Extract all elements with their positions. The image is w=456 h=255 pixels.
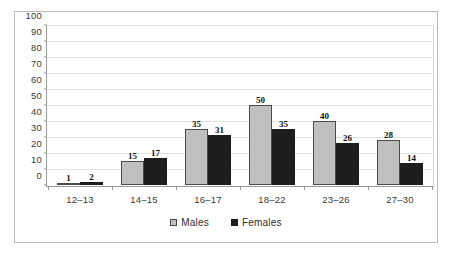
bar-group: 3531 xyxy=(176,27,240,185)
bar-females[interactable]: 17 xyxy=(144,158,167,185)
x-tick-mark xyxy=(368,186,369,190)
x-category-label: 14–15 xyxy=(130,194,157,205)
bar-group: 1517 xyxy=(112,27,176,185)
x-tick-mark xyxy=(112,186,113,190)
legend-label: Females xyxy=(242,217,282,228)
bar-males[interactable]: 28 xyxy=(377,140,400,185)
bar-group-bars: 1517 xyxy=(112,27,176,185)
plot-area: 0102030405060708090100 12151735315035402… xyxy=(46,25,434,187)
y-tick-label: 40 xyxy=(31,106,42,117)
bar-value-label: 14 xyxy=(407,154,416,163)
bar-value-label: 31 xyxy=(215,126,224,135)
y-tick-label: 90 xyxy=(31,26,42,37)
bar-group: 5035 xyxy=(240,27,304,185)
bar-group-bars: 4026 xyxy=(304,27,368,185)
y-tick-mark xyxy=(44,153,47,154)
bar-group-bars: 3531 xyxy=(176,27,240,185)
y-tick-mark xyxy=(44,57,47,58)
y-tick-label: 100 xyxy=(26,10,42,21)
bar-females[interactable]: 14 xyxy=(400,163,423,185)
bar-group-bars: 5035 xyxy=(240,27,304,185)
y-tick-mark xyxy=(44,41,47,42)
y-tick-label: 60 xyxy=(31,74,42,85)
x-tick-mark xyxy=(176,186,177,190)
legend-item-males[interactable]: Males xyxy=(170,217,209,228)
bar-value-label: 35 xyxy=(192,120,201,129)
bar-females[interactable]: 35 xyxy=(272,129,295,185)
bar-value-label: 26 xyxy=(343,134,352,143)
x-category-label: 16–17 xyxy=(194,194,221,205)
gridline xyxy=(47,25,433,26)
bar-value-label: 15 xyxy=(128,152,137,161)
legend-swatch-females xyxy=(231,219,238,226)
bars-layer: 1215173531503540262814 xyxy=(48,27,432,185)
bar-females[interactable]: 26 xyxy=(336,143,359,185)
y-tick-label: 0 xyxy=(37,170,42,181)
bar-males[interactable]: 40 xyxy=(313,121,336,185)
bar-females[interactable]: 2 xyxy=(80,182,103,185)
bar-value-label: 40 xyxy=(320,112,329,121)
legend-label: Males xyxy=(181,217,209,228)
x-category-label: 12–13 xyxy=(66,194,93,205)
x-tick-mark xyxy=(48,186,49,190)
bar-group: 12 xyxy=(48,27,112,185)
y-tick-mark xyxy=(44,105,47,106)
x-category-label: 27–30 xyxy=(386,194,413,205)
bar-value-label: 28 xyxy=(384,131,393,140)
bar-value-label: 2 xyxy=(89,173,94,182)
bar-value-label: 35 xyxy=(279,120,288,129)
bar-value-label: 17 xyxy=(151,149,160,158)
y-tick-label: 10 xyxy=(31,154,42,165)
bar-males[interactable]: 35 xyxy=(185,129,208,185)
chart-frame: 0102030405060708090100 12151735315035402… xyxy=(14,11,438,243)
x-category-label: 23–26 xyxy=(322,194,349,205)
y-tick-mark xyxy=(44,169,47,170)
y-tick-mark xyxy=(44,137,47,138)
bar-males[interactable]: 50 xyxy=(249,105,272,185)
legend-swatch-males xyxy=(170,219,177,226)
x-tick-mark xyxy=(304,186,305,190)
y-tick-mark xyxy=(44,89,47,90)
bar-value-label: 50 xyxy=(256,96,265,105)
bar-group-bars: 2814 xyxy=(368,27,432,185)
y-tick-label: 20 xyxy=(31,138,42,149)
y-tick-label: 50 xyxy=(31,90,42,101)
y-tick-mark xyxy=(44,25,47,26)
bar-group-bars: 12 xyxy=(48,27,112,185)
x-tick-mark xyxy=(240,186,241,190)
x-category-label: 18–22 xyxy=(258,194,285,205)
legend-item-females[interactable]: Females xyxy=(231,217,282,228)
y-tick-mark xyxy=(44,73,47,74)
bar-females[interactable]: 31 xyxy=(208,135,231,185)
bar-group: 2814 xyxy=(368,27,432,185)
bar-value-label: 1 xyxy=(66,174,71,183)
y-tick-label: 30 xyxy=(31,122,42,133)
bar-males[interactable]: 15 xyxy=(121,161,144,185)
y-tick-mark xyxy=(44,185,47,186)
chart-legend: MalesFemales xyxy=(15,217,437,228)
bar-group: 4026 xyxy=(304,27,368,185)
y-tick-mark xyxy=(44,121,47,122)
y-tick-label: 80 xyxy=(31,42,42,53)
y-tick-label: 70 xyxy=(31,58,42,69)
x-tick-mark xyxy=(432,186,433,190)
bar-males[interactable]: 1 xyxy=(57,183,80,185)
